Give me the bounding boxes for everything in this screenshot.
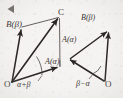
right-triangle-group [71, 32, 109, 81]
vector-OA [12, 68, 57, 83]
vector-OB-right [105, 33, 109, 81]
vector-OA-right [71, 60, 105, 81]
play-triangle-marker [8, 5, 15, 13]
angle-leader-line [38, 76, 42, 81]
angle-leader-line-right [89, 74, 93, 79]
vector-OB [12, 30, 21, 82]
edge-AC [60, 19, 61, 67]
left-parallelogram-group [12, 18, 60, 83]
math-figure: B(β) C A(α) O α+β B(β) A(α) O β−α [0, 0, 123, 98]
angle-beta-minus-alpha-arc [93, 66, 102, 74]
figure-vector-graphics [0, 0, 123, 98]
vector-AB-right [71, 32, 107, 59]
vector-OC [12, 19, 58, 82]
